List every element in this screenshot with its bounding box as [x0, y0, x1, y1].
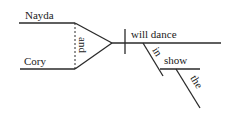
word-will-dance: will dance	[131, 28, 177, 40]
word-nayda: Nayda	[25, 9, 54, 21]
word-cory: Cory	[24, 55, 47, 67]
word-the: the	[188, 73, 205, 91]
word-show: show	[164, 54, 187, 66]
word-and: and	[77, 37, 89, 53]
sentence-diagram: Nayda Cory and will dance in show the	[0, 0, 229, 113]
